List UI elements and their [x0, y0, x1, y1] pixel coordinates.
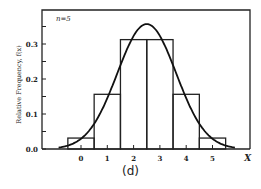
y-axis-label: Relative Frequency, f(x)	[15, 45, 23, 124]
y-tick-label: 0.2	[26, 75, 38, 84]
histogram-bar	[94, 94, 120, 149]
x-tick-label: 2	[131, 154, 136, 163]
x-tick-label: 1	[105, 154, 110, 163]
histogram-bar	[173, 94, 199, 149]
y-tick-label: 0.1	[26, 110, 38, 119]
sample-size-annotation: n=5	[56, 15, 71, 23]
x-tick-label: 5	[210, 154, 215, 163]
y-tick-label: 0.0	[26, 145, 38, 154]
chart: 0.00.10.20.3012345n=5XRelative Frequency…	[0, 0, 261, 189]
chart-caption: (d)	[0, 164, 261, 178]
x-tick-label: 4	[184, 154, 189, 163]
x-axis-label: X	[243, 153, 252, 163]
plot-frame	[42, 10, 250, 149]
x-tick-label: 0	[79, 154, 84, 163]
x-tick-label: 3	[157, 154, 162, 163]
y-tick-label: 0.3	[26, 40, 38, 49]
